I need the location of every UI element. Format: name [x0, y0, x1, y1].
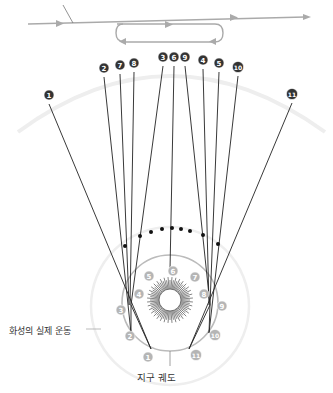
earth-badge-1: 1 [143, 352, 153, 362]
svg-text:4: 4 [137, 291, 142, 299]
svg-text:7: 7 [118, 62, 123, 70]
sky-badge-2: 2 [99, 63, 109, 73]
earth-badge-8: 8 [199, 289, 209, 299]
svg-text:7: 7 [193, 274, 198, 282]
sky-badge-10: 10 [232, 61, 243, 72]
earth-badge-9: 9 [217, 301, 227, 311]
earth-badge-5: 5 [144, 271, 154, 281]
earth-badge-7: 7 [190, 272, 200, 282]
sky-badge-1: 1 [44, 90, 54, 100]
sky-badge-7: 7 [115, 60, 125, 70]
svg-text:2: 2 [128, 333, 133, 341]
sun-icon [147, 277, 193, 323]
svg-text:11: 11 [288, 91, 296, 98]
svg-text:2: 2 [102, 65, 107, 73]
celestial-sphere-arc [18, 76, 325, 132]
svg-text:9: 9 [183, 54, 188, 62]
sky-badge-6: 6 [169, 52, 179, 62]
earth-badge-6: 6 [168, 266, 178, 276]
svg-text:4: 4 [201, 57, 206, 65]
svg-text:5: 5 [147, 273, 152, 281]
sky-badge-5: 5 [214, 58, 224, 68]
earth-badge-10: 10 [209, 329, 220, 340]
earth-badge-4: 4 [134, 289, 144, 299]
svg-text:6: 6 [172, 54, 177, 62]
sky-badge-3: 3 [158, 52, 168, 62]
earth-orbit-label: 지구 궤도 [137, 370, 176, 384]
arrowheads [56, 14, 311, 45]
svg-text:6: 6 [171, 268, 176, 276]
svg-text:8: 8 [132, 60, 137, 68]
mars-position-dots [123, 226, 220, 248]
svg-text:3: 3 [119, 307, 124, 315]
sky-badge-9: 9 [180, 52, 190, 62]
mars-actual-motion-label: 화성의 실제 운동 [9, 324, 71, 337]
svg-text:1: 1 [146, 354, 151, 362]
earth-badge-2: 2 [125, 331, 135, 341]
svg-text:3: 3 [161, 54, 166, 62]
svg-text:10: 10 [211, 332, 219, 339]
svg-text:9: 9 [220, 303, 225, 311]
earth-badge-3: 3 [116, 305, 126, 315]
sky-badge-11: 11 [286, 88, 297, 99]
sky-badge-8: 8 [129, 58, 139, 68]
svg-text:5: 5 [217, 60, 222, 68]
svg-text:10: 10 [234, 64, 242, 71]
svg-text:1: 1 [47, 92, 52, 100]
svg-text:8: 8 [202, 291, 207, 299]
earth-badge-11: 11 [190, 349, 201, 360]
sky-badge-4: 4 [198, 55, 208, 65]
svg-text:11: 11 [192, 352, 200, 359]
